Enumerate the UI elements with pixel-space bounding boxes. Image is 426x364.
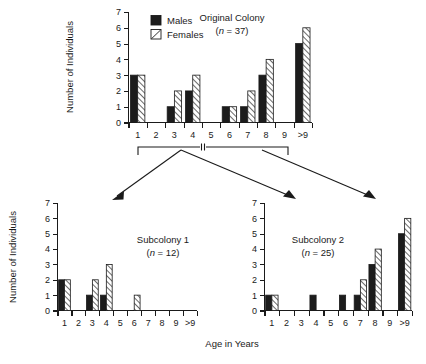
panel-subcolony-1: Number of Individuals 01234567 123456789… — [7, 198, 198, 327]
x-tick-labels-sub1: 123456789>9 — [58, 311, 198, 328]
bar-males — [241, 107, 248, 123]
bar-males — [87, 295, 93, 310]
bar-males — [186, 91, 193, 123]
bar-males — [354, 295, 360, 310]
panel-subcolony-2: 01234567 123456789>9 Subcolony 2 (n = 25… — [252, 198, 413, 327]
y-tick-label: 0 — [45, 306, 50, 316]
x-tick-label: 2 — [284, 318, 289, 328]
y-tick-labels-top: 01234567 — [116, 7, 129, 128]
x-tick-label: >9 — [298, 130, 308, 140]
y-tick-label: 5 — [45, 229, 50, 239]
bar-females — [303, 28, 310, 123]
x-tick-label: >9 — [185, 318, 195, 328]
bar-females — [174, 91, 181, 123]
bar-females — [405, 218, 411, 310]
x-tick-label: 8 — [264, 130, 269, 140]
figure-canvas: Number of Individuals 01234567 123456789… — [0, 0, 426, 364]
x-tick-label: 3 — [172, 130, 177, 140]
x-tick-label: 9 — [174, 318, 179, 328]
bar-females — [375, 249, 381, 310]
y-tick-label: 3 — [45, 260, 50, 270]
y-tick-label: 1 — [252, 291, 257, 301]
x-tick-label: 1 — [62, 318, 67, 328]
bars-sub2 — [266, 218, 411, 310]
x-tick-label: 4 — [190, 130, 195, 140]
y-tick-label: 1 — [116, 102, 121, 112]
y-tick-label: 7 — [45, 198, 50, 208]
y-tick-label: 5 — [252, 229, 257, 239]
bar-females — [193, 75, 200, 122]
x-tick-label: 1 — [269, 318, 274, 328]
y-tick-labels-sub2: 01234567 — [252, 198, 265, 316]
panel-title-sub2: Subcolony 2 — [292, 234, 344, 245]
x-tick-label: 4 — [314, 318, 319, 328]
y-tick-label: 0 — [116, 118, 121, 128]
legend-males-label: Males — [167, 15, 193, 26]
y-tick-label: 6 — [45, 214, 50, 224]
bar-males — [100, 295, 106, 310]
panel-n-sub1: (n = 12) — [146, 247, 179, 258]
x-tick-label: 7 — [245, 130, 250, 140]
x-tick-label: 6 — [343, 318, 348, 328]
panel-original-colony: Number of Individuals 01234567 123456789… — [64, 7, 313, 139]
x-tick-label: 9 — [282, 130, 287, 140]
x-tick-label: 2 — [154, 130, 159, 140]
x-tick-label: >9 — [399, 318, 409, 328]
bar-females — [92, 280, 98, 311]
bars-top — [130, 28, 310, 123]
legend-males-swatch — [151, 16, 161, 26]
x-tick-label: 5 — [209, 130, 214, 140]
y-tick-label: 0 — [252, 306, 257, 316]
panel-n-original: (n = 37) — [215, 25, 248, 36]
bar-females — [248, 91, 255, 123]
x-tick-label: 2 — [76, 318, 81, 328]
y-tick-label: 7 — [252, 198, 257, 208]
arrow-to-subcolony-1 — [112, 150, 181, 200]
bar-males — [398, 234, 404, 311]
y-tick-label: 6 — [252, 214, 257, 224]
y-axis-title-sub1: Number of Individuals — [7, 211, 18, 303]
x-tick-label: 4 — [104, 318, 109, 328]
legend-females-label: Females — [167, 29, 204, 40]
y-tick-label: 6 — [116, 23, 121, 33]
x-tick-label: 8 — [373, 318, 378, 328]
bar-females — [272, 295, 278, 310]
bar-males — [259, 75, 266, 122]
bar-males — [266, 295, 272, 310]
connector-bracket — [138, 144, 288, 156]
x-axis-title-shared: Age in Years — [205, 338, 259, 349]
bar-females — [106, 264, 112, 310]
y-tick-labels-sub1: 01234567 — [45, 198, 58, 316]
bar-males — [59, 280, 65, 311]
bar-females — [360, 280, 366, 311]
legend: Males Females — [151, 15, 204, 40]
y-tick-label: 5 — [116, 39, 121, 49]
x-tick-label: 8 — [160, 318, 165, 328]
x-tick-labels-sub2: 123456789>9 — [265, 311, 413, 328]
x-tick-label: 1 — [135, 130, 140, 140]
y-tick-label: 4 — [45, 244, 50, 254]
panel-title-original: Original Colony — [200, 12, 265, 23]
x-tick-label: 3 — [90, 318, 95, 328]
bar-females — [229, 107, 236, 123]
bar-males — [339, 295, 345, 310]
x-tick-label: 6 — [132, 318, 137, 328]
bar-females — [134, 295, 140, 310]
panel-title-sub1: Subcolony 1 — [137, 234, 189, 245]
y-tick-label: 3 — [116, 71, 121, 81]
bar-females — [138, 75, 145, 122]
y-tick-label: 3 — [252, 260, 257, 270]
y-tick-label: 4 — [116, 55, 121, 65]
y-tick-label: 2 — [45, 275, 50, 285]
bar-females — [266, 59, 273, 122]
bar-males — [296, 44, 303, 123]
y-axis-title-top: Number of Individuals — [64, 21, 75, 113]
figure-root: Number of Individuals 01234567 123456789… — [0, 0, 426, 364]
y-tick-label: 2 — [252, 275, 257, 285]
x-tick-labels-top: 123456789>9 — [129, 123, 313, 140]
y-tick-label: 2 — [116, 86, 121, 96]
y-tick-label: 4 — [252, 244, 257, 254]
x-tick-label: 3 — [299, 318, 304, 328]
bar-females — [64, 280, 70, 311]
bar-males — [369, 264, 375, 310]
